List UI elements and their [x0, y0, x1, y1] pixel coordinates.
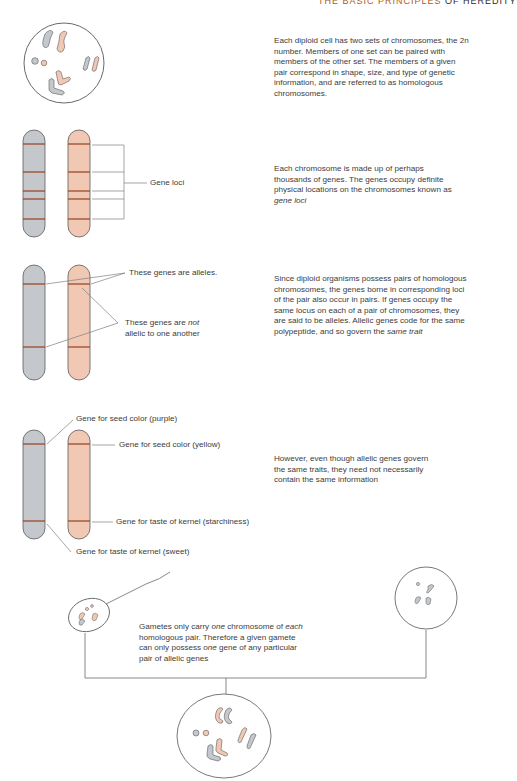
- gametes-em-2: each: [285, 622, 303, 631]
- not-allelic-text-2: allelic to one another: [125, 329, 200, 338]
- gametes-em-3: one: [203, 643, 217, 652]
- allele-info-paragraph: However, even though allelic genes gover…: [274, 454, 434, 486]
- alleles-text: Since diploid organisms possess pairs of…: [274, 274, 467, 336]
- label-kernel-sweet: Gene for taste of kernel (sweet): [76, 547, 189, 556]
- gametes-em-1: one: [211, 622, 225, 631]
- gene-loci-label: Gene loci: [150, 178, 184, 187]
- gene-loci-paragraph: Each chromosome is made up of perhaps th…: [274, 164, 459, 206]
- alleles-chromosomes: [23, 265, 125, 380]
- gametes-text-2: chromosome of: [225, 622, 285, 631]
- gene-loci-chromosomes: [23, 130, 147, 237]
- alleles-label: These genes are alleles.: [129, 268, 217, 277]
- alleles-paragraph: Since diploid organisms possess pairs of…: [274, 274, 470, 338]
- gene-loci-text: Each chromosome is made up of perhaps th…: [274, 164, 452, 194]
- not-allelic-text-1: These genes are: [125, 318, 188, 327]
- label-seed-color-purple: Gene for seed color (purple): [76, 414, 177, 423]
- allele-info-chromosomes: [23, 420, 115, 552]
- gametes-paragraph: Gametes only carry one chromosome of eac…: [139, 622, 309, 664]
- label-kernel-starchiness: Gene for taste of kernel (starchiness): [116, 517, 249, 526]
- gametes-text-1: Gametes only carry: [139, 622, 211, 631]
- diploid-cell-paragraph: Each diploid cell has two sets of chromo…: [274, 36, 470, 100]
- diploid-cell-icon: [24, 23, 104, 103]
- gene-loci-term: gene loci: [274, 196, 306, 205]
- gametes-diagram: [64, 567, 457, 778]
- alleles-term: same trait: [387, 327, 423, 336]
- not-allelic-label: These genes are notallelic to one anothe…: [125, 318, 200, 339]
- not-allelic-em: not: [188, 318, 199, 327]
- label-seed-color-yellow: Gene for seed color (yellow): [119, 440, 220, 449]
